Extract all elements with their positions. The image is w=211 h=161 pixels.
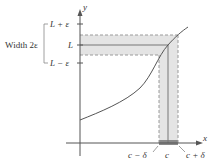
width-bracket: [44, 24, 48, 63]
tick-label-L: L: [67, 40, 73, 50]
y-axis-arrow-icon: [78, 9, 83, 16]
tick-label-L-plus-epsilon: L + ε: [49, 19, 69, 29]
x-axis-label: x: [202, 133, 207, 143]
epsilon-delta-diagram: y x L + ε L L − ε Width 2ε c − δ c c + δ: [0, 0, 211, 161]
tick-label-L-minus-epsilon: L − ε: [49, 58, 69, 68]
tick-label-c: c: [165, 150, 169, 160]
tick-label-c-minus-delta: c − δ: [128, 150, 148, 160]
tick-label-c-plus-delta: c + δ: [186, 150, 206, 160]
x-axis-arrow-icon: [196, 141, 203, 146]
width-2-epsilon-label: Width 2ε: [5, 40, 38, 50]
y-axis-label: y: [82, 2, 87, 12]
